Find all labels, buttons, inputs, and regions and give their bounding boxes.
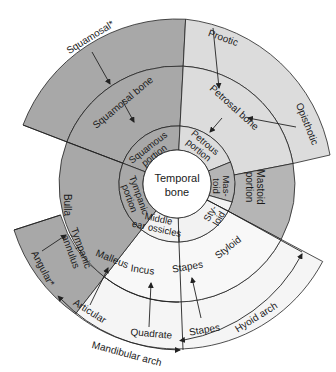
temporal-bone-diagram: Temporal bone Squamous portion Petrous p… [0,0,336,372]
center-label-2: bone [165,186,189,198]
mastoid-inner-label-2: toid [211,178,222,193]
mastoid-portion-label-2: portion [244,172,255,203]
mastoid-portion-label-1: Mastoid [255,169,266,204]
center-label-1: Temporal [154,172,199,184]
bulla-label: Bulla [62,194,73,217]
